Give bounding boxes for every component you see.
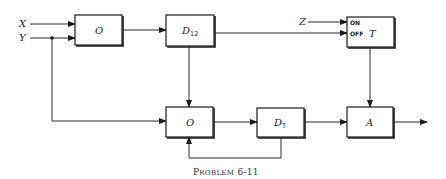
wire-y-to-or-bottom <box>52 38 166 121</box>
d12-label: D <box>181 25 190 36</box>
timer-port-off: OFF <box>350 30 363 37</box>
input-y-label: Y <box>19 32 27 43</box>
timer-port-on: ON <box>350 19 360 26</box>
figure-caption: PROBLEM 6-11 <box>193 167 259 177</box>
dt-subscript: T <box>281 122 286 130</box>
input-x-label: X <box>18 18 27 29</box>
or-top-label: O <box>95 25 103 36</box>
and-gate-block: A <box>347 107 394 138</box>
delay-12-block: D 12 <box>166 15 215 47</box>
wire-dt-feedback-to-or-bottom <box>189 137 281 158</box>
dt-label: D <box>273 117 282 128</box>
logic-block-diagram: X Y O D 12 Z ON OFF T O D <box>0 0 446 179</box>
delay-t-block: D T <box>257 108 305 138</box>
d12-subscript: 12 <box>190 30 198 38</box>
or-bottom-label: O <box>186 117 194 128</box>
input-z-label: Z <box>298 16 307 27</box>
timer-block: ON OFF T <box>347 17 395 48</box>
and-label: A <box>365 117 373 128</box>
or-gate-top-block: O <box>75 15 123 46</box>
or-gate-bottom-block: O <box>166 107 214 138</box>
